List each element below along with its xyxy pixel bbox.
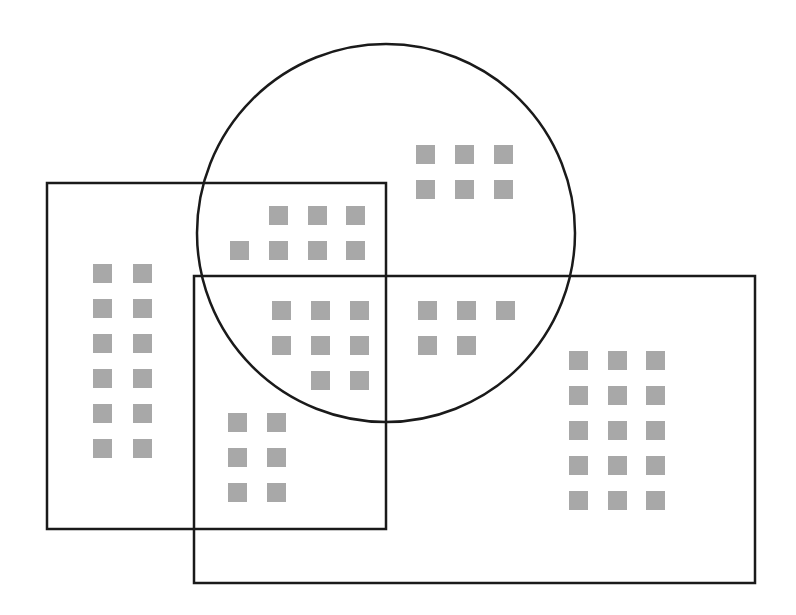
item-square xyxy=(228,448,247,467)
item-square xyxy=(608,351,627,370)
item-square xyxy=(93,369,112,388)
item-square xyxy=(457,301,476,320)
item-square xyxy=(230,241,249,260)
item-square xyxy=(569,421,588,440)
item-square xyxy=(608,456,627,475)
item-square xyxy=(346,241,365,260)
item-square xyxy=(494,180,513,199)
item-square xyxy=(93,404,112,423)
item-group-a-only xyxy=(93,264,152,458)
item-square xyxy=(267,448,286,467)
venn-diagram xyxy=(0,0,796,615)
item-group-a-and-c xyxy=(230,206,365,260)
item-square xyxy=(350,301,369,320)
item-group-a-and-b xyxy=(228,413,286,502)
item-square xyxy=(267,413,286,432)
item-square xyxy=(646,386,665,405)
item-square xyxy=(416,180,435,199)
item-square xyxy=(416,145,435,164)
item-square xyxy=(93,299,112,318)
item-square xyxy=(455,180,474,199)
item-square xyxy=(133,264,152,283)
item-group-b-and-c xyxy=(418,301,515,355)
item-square xyxy=(608,491,627,510)
item-square xyxy=(350,336,369,355)
item-square xyxy=(457,336,476,355)
item-square xyxy=(269,206,288,225)
rect-a-outline xyxy=(47,183,386,529)
item-group-c-only xyxy=(416,145,513,199)
item-square xyxy=(455,145,474,164)
item-square xyxy=(308,241,327,260)
item-square xyxy=(311,371,330,390)
item-square xyxy=(93,334,112,353)
item-square xyxy=(496,301,515,320)
item-square xyxy=(133,369,152,388)
item-square xyxy=(93,439,112,458)
item-square xyxy=(608,421,627,440)
item-square xyxy=(228,483,247,502)
item-square xyxy=(93,264,112,283)
item-square xyxy=(311,301,330,320)
item-square xyxy=(494,145,513,164)
item-square xyxy=(267,483,286,502)
item-square xyxy=(608,386,627,405)
item-square xyxy=(272,301,291,320)
item-square xyxy=(308,206,327,225)
item-square xyxy=(269,241,288,260)
item-square xyxy=(133,299,152,318)
item-square xyxy=(646,421,665,440)
item-square xyxy=(133,334,152,353)
item-square xyxy=(350,371,369,390)
item-square xyxy=(133,439,152,458)
item-square xyxy=(133,404,152,423)
item-square xyxy=(272,336,291,355)
item-square xyxy=(311,336,330,355)
item-square xyxy=(646,491,665,510)
item-square xyxy=(346,206,365,225)
item-square xyxy=(569,386,588,405)
item-group-a-and-b-and-c xyxy=(272,301,369,390)
item-square xyxy=(418,336,437,355)
item-square xyxy=(646,351,665,370)
item-square xyxy=(418,301,437,320)
item-square xyxy=(569,491,588,510)
item-square xyxy=(646,456,665,475)
item-square xyxy=(228,413,247,432)
item-square xyxy=(569,456,588,475)
item-square xyxy=(569,351,588,370)
item-group-b-only xyxy=(569,351,665,510)
venn-svg xyxy=(0,0,796,615)
